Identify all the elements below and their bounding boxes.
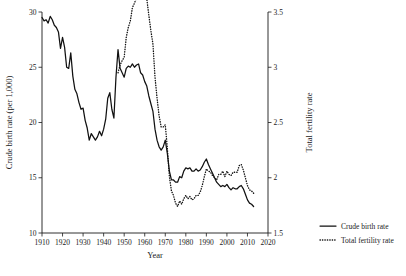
y-axis-right-title: Total fertility rate xyxy=(304,92,314,152)
chart-figure: 10152025301.522.533.51910192019301940195… xyxy=(0,0,406,276)
x-axis-tick-label: 1920 xyxy=(55,238,70,247)
x-axis-tick-label: 1990 xyxy=(199,238,214,247)
y-axis-left-title: Crude birth rate (per 1,000) xyxy=(4,75,14,169)
y-axis-right-tick-label: 3.5 xyxy=(274,8,284,17)
x-axis-tick-label: 2010 xyxy=(240,238,255,247)
x-axis-tick-label: 1970 xyxy=(158,238,173,247)
y-axis-right-tick-label: 2.5 xyxy=(274,118,284,127)
legend-label-crude-birth-rate: Crude birth rate xyxy=(341,222,389,231)
series-line-total-fertility-rate xyxy=(118,0,254,206)
x-axis-tick-label: 1910 xyxy=(35,238,50,247)
y-axis-left-tick-label: 25 xyxy=(29,63,37,72)
legend-label-total-fertility-rate: Total fertility rate xyxy=(341,236,394,245)
y-axis-left-tick-label: 20 xyxy=(29,118,37,127)
y-axis-left-tick-label: 15 xyxy=(29,173,37,182)
x-axis-tick-label: 2000 xyxy=(219,238,234,247)
y-axis-left-tick-label: 10 xyxy=(29,229,37,238)
y-axis-right-tick-label: 1.5 xyxy=(274,229,284,238)
y-axis-right-tick-label: 3 xyxy=(274,63,278,72)
x-axis-tick-label: 2020 xyxy=(261,238,276,247)
x-axis-tick-label: 1980 xyxy=(178,238,193,247)
x-axis-tick-label: 1940 xyxy=(96,238,111,247)
series-line-crude-birth-rate xyxy=(42,16,254,206)
y-axis-left-tick-label: 30 xyxy=(29,8,37,17)
x-axis-tick-label: 1950 xyxy=(117,238,132,247)
y-axis-right-tick-label: 2 xyxy=(274,173,278,182)
x-axis-tick-label: 1960 xyxy=(137,238,152,247)
x-axis-tick-label: 1930 xyxy=(76,238,91,247)
dual-axis-line-chart: 10152025301.522.533.51910192019301940195… xyxy=(0,0,406,276)
x-axis-title: Year xyxy=(147,250,163,260)
